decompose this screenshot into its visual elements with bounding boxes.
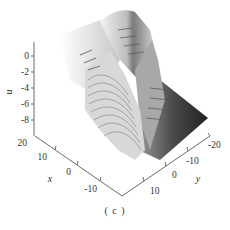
x-tick-0: 20 [18, 138, 28, 148]
z-tick-1: -2 [21, 67, 29, 77]
y-tick-3: -20 [208, 140, 221, 150]
figure-caption: ( c ) [0, 205, 230, 216]
x-axis-label: x [47, 173, 53, 184]
y-tick-1: 0 [172, 170, 177, 180]
z-tick-0: 0 [24, 51, 29, 61]
x-tick-3: -10 [84, 184, 97, 194]
z-tick-3: -6 [21, 99, 29, 109]
z-tick-4: -8 [21, 115, 29, 125]
y-axis-label: y [195, 173, 201, 184]
z-axis [31, 42, 34, 136]
x-tick-2: 0 [66, 167, 71, 177]
z-tick-2: -4 [21, 83, 29, 93]
surface-plot: 0 -2 -4 -6 -8 u 20 10 0 -10 x 10 0 -10 -… [0, 0, 230, 230]
surface [60, 10, 208, 160]
z-axis-label: u [3, 90, 14, 95]
x-axis [35, 136, 122, 196]
x-tick-1: 10 [38, 152, 48, 162]
y-tick-2: -10 [186, 156, 199, 166]
y-tick-0: 10 [150, 186, 160, 196]
